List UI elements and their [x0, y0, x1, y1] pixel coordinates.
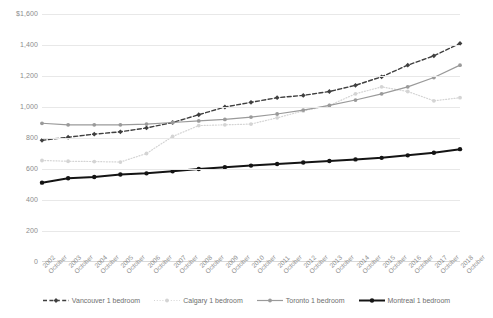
data-point-marker: [275, 95, 280, 100]
legend-swatch-icon: [359, 296, 385, 305]
gridline: [42, 107, 460, 108]
y-axis-tick-label: 600: [0, 165, 38, 172]
data-point-marker: [327, 159, 331, 163]
data-point-marker: [144, 126, 149, 131]
data-point-marker: [223, 118, 227, 122]
legend-label: Calgary 1 bedroom: [183, 296, 243, 305]
data-point-marker: [196, 112, 201, 117]
y-axis-tick-label: $1,600: [0, 10, 38, 17]
gridline: [42, 45, 460, 46]
legend-swatch-icon: [257, 296, 283, 305]
legend-item-vancouver[interactable]: Vancouver 1 bedroom: [43, 296, 140, 305]
legend-item-calgary[interactable]: Calgary 1 bedroom: [154, 296, 243, 305]
data-point-marker: [406, 153, 410, 157]
data-point-marker: [406, 85, 410, 89]
data-point-marker: [275, 116, 279, 120]
gridline: [42, 138, 460, 139]
legend-swatch-icon: [43, 296, 69, 305]
data-point-marker: [406, 90, 410, 94]
data-point-marker: [171, 121, 175, 125]
gridline: [42, 14, 460, 15]
data-point-marker: [301, 93, 306, 98]
data-point-marker: [249, 122, 253, 126]
data-point-marker: [40, 180, 44, 184]
gridline: [42, 231, 460, 232]
data-point-marker: [223, 123, 227, 127]
y-axis-tick-label: 800: [0, 134, 38, 141]
data-point-marker: [458, 147, 462, 151]
data-point-marker: [275, 112, 279, 116]
data-point-marker: [432, 99, 436, 103]
data-point-marker: [249, 115, 253, 119]
rental-price-line-chart: $1,6001,4001,2001,0008006004002000 2002O…: [0, 0, 493, 318]
y-axis-tick-label: 400: [0, 196, 38, 203]
gridline: [42, 169, 460, 170]
data-point-marker: [275, 162, 279, 166]
data-point-marker: [354, 92, 358, 96]
data-point-marker: [249, 100, 254, 105]
data-point-marker: [144, 171, 148, 175]
plot-area: [42, 14, 460, 262]
legend-label: Vancouver 1 bedroom: [72, 296, 140, 305]
data-point-marker: [249, 163, 253, 167]
data-point-marker: [327, 89, 332, 94]
data-point-marker: [353, 157, 357, 161]
data-point-marker: [118, 129, 123, 134]
data-point-marker: [92, 160, 96, 164]
data-point-marker: [40, 121, 44, 125]
y-axis-tick-label: 1,000: [0, 103, 38, 110]
y-axis-tick-label: 1,400: [0, 41, 38, 48]
data-point-marker: [379, 156, 383, 160]
data-point-marker: [66, 123, 70, 127]
data-point-marker: [92, 132, 97, 137]
data-point-marker: [405, 63, 410, 68]
data-point-marker: [118, 160, 122, 164]
data-point-marker: [301, 108, 305, 112]
y-axis: $1,6001,4001,2001,0008006004002000: [0, 0, 38, 276]
legend-item-montreal[interactable]: Montreal 1 bedroom: [359, 296, 451, 305]
data-point-marker: [145, 152, 149, 156]
legend-label: Montreal 1 bedroom: [388, 296, 451, 305]
data-point-marker: [458, 96, 462, 100]
chart-legend: Vancouver 1 bedroomCalgary 1 bedroomToro…: [0, 296, 493, 305]
data-point-marker: [432, 151, 436, 155]
data-point-marker: [40, 159, 44, 163]
legend-item-toronto[interactable]: Toronto 1 bedroom: [257, 296, 345, 305]
data-point-marker: [92, 175, 96, 179]
data-point-marker: [354, 98, 358, 102]
data-point-marker: [118, 123, 122, 127]
legend-swatch-icon: [154, 296, 180, 305]
y-axis-tick-label: 0: [0, 258, 38, 265]
legend-label: Toronto 1 bedroom: [286, 296, 345, 305]
gridline: [42, 76, 460, 77]
data-point-marker: [380, 92, 384, 96]
gridline: [42, 200, 460, 201]
y-axis-tick-label: 1,200: [0, 72, 38, 79]
data-point-marker: [66, 159, 70, 163]
data-point-marker: [380, 85, 384, 89]
y-axis-tick-label: 200: [0, 227, 38, 234]
data-point-marker: [92, 123, 96, 127]
data-point-marker: [118, 172, 122, 176]
data-point-marker: [431, 53, 436, 58]
data-point-marker: [197, 124, 201, 128]
data-point-marker: [353, 83, 358, 88]
data-point-marker: [458, 63, 462, 67]
data-point-marker: [145, 122, 149, 126]
data-point-marker: [197, 119, 201, 123]
data-point-marker: [301, 160, 305, 164]
data-point-marker: [66, 176, 70, 180]
